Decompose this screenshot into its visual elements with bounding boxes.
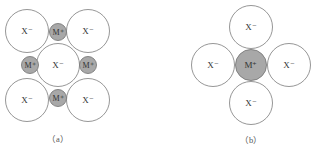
cation-label: M⁺ [52,94,63,103]
anion-label: X⁻ [245,98,257,108]
cation-label: M⁺ [244,60,257,70]
panel-b: X⁻ X⁻ X⁻ X⁻ M⁺ （b） [192,6,311,146]
cation-label: M⁺ [82,61,93,70]
anion-label: X⁻ [21,26,33,36]
anion-label: X⁻ [207,60,219,70]
cation-label: M⁺ [24,61,35,70]
anion-label: X⁻ [82,26,94,36]
anion-label: X⁻ [21,95,33,105]
anion-label: X⁻ [82,95,94,105]
ionic-packing-diagram: X⁻ X⁻ X⁻ X⁻ X⁻ M⁺ M⁺ M⁺ M⁺ （a） X⁻ X⁻ X⁻ … [0,0,316,149]
caption-b: （b） [240,135,262,145]
anion-label: X⁻ [245,22,257,32]
anion-label: X⁻ [52,60,64,70]
anion-label: X⁻ [283,60,295,70]
caption-a: （a） [47,134,69,144]
panel-a: X⁻ X⁻ X⁻ X⁻ X⁻ M⁺ M⁺ M⁺ M⁺ （a） [6,10,110,145]
cation-label: M⁺ [52,28,63,37]
